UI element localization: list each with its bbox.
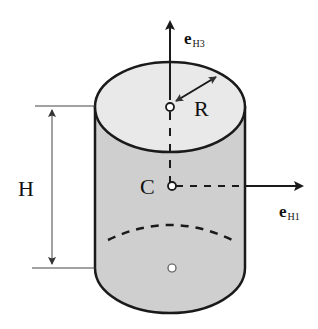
label-radius: R xyxy=(194,98,209,120)
diagram-canvas: eH3 R C eH1 H xyxy=(0,0,318,329)
label-e-h1: eH1 xyxy=(279,203,300,222)
label-center: C xyxy=(140,176,155,198)
center-point-c xyxy=(168,182,176,190)
label-e-h3: eH3 xyxy=(184,30,205,49)
label-height: H xyxy=(18,178,34,200)
bottom-center-point xyxy=(168,264,176,272)
top-center-point xyxy=(166,103,174,111)
cylinder-drawing xyxy=(0,0,318,329)
